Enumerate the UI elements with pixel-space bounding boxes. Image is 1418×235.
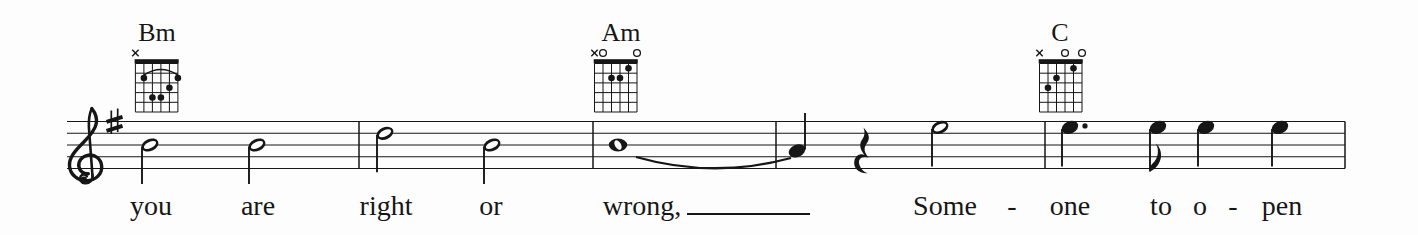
lyric-syllable: right: [360, 192, 413, 220]
lyric-hyphen: -: [1228, 192, 1237, 220]
open-string-o-icon: [1062, 50, 1069, 57]
finger-dot: [617, 75, 624, 82]
finger-dot: [608, 75, 615, 82]
open-string-o-icon: [1079, 50, 1086, 57]
chord-nut: [135, 59, 179, 63]
lyric-syllable: wrong,: [603, 192, 682, 220]
open-string-o-icon: [600, 50, 607, 57]
chord-diagram-Bm: [132, 50, 181, 112]
finger-dot: [141, 75, 148, 82]
eighth-flag: [1150, 143, 1161, 171]
finger-dot: [1053, 75, 1060, 82]
chord-nut: [594, 59, 638, 63]
lyric-syllable: o: [1193, 192, 1207, 220]
finger-dot: [625, 65, 632, 72]
treble-clef: [81, 177, 87, 183]
finger-dot: [158, 94, 165, 101]
chord-name-label: Am: [602, 20, 641, 46]
augmentation-dot: [1082, 123, 1087, 128]
lyric-syllable: pen: [1262, 192, 1302, 220]
lyric-syllable: are: [241, 192, 275, 220]
finger-dot: [1070, 65, 1077, 72]
treble-clef: [89, 109, 93, 178]
finger-dot: [166, 84, 173, 91]
chord-name-label: Bm: [138, 20, 176, 46]
chord-diagram-C: [1036, 50, 1085, 112]
sheet-music-page: Bm Am C you are right or wrong, Some - o…: [0, 0, 1418, 235]
finger-dot: [1045, 84, 1052, 91]
lyric-syllable: or: [479, 192, 502, 220]
chord-nut: [1039, 59, 1083, 63]
lyric-syllable: Some: [913, 192, 977, 220]
finger-dot: [175, 75, 182, 82]
chord-name-label: C: [1051, 20, 1068, 46]
lyric-hyphen: -: [1007, 192, 1016, 220]
quarter-rest: [854, 128, 869, 174]
finger-dot: [149, 94, 156, 101]
sharp-sign: [107, 126, 123, 131]
lyric-syllable: to: [1150, 192, 1172, 220]
slur: [636, 157, 791, 168]
chord-diagram-Am: [591, 50, 640, 112]
lyric-syllable: one: [1050, 192, 1090, 220]
lyric-syllable: you: [130, 192, 172, 220]
open-string-o-icon: [634, 50, 641, 57]
